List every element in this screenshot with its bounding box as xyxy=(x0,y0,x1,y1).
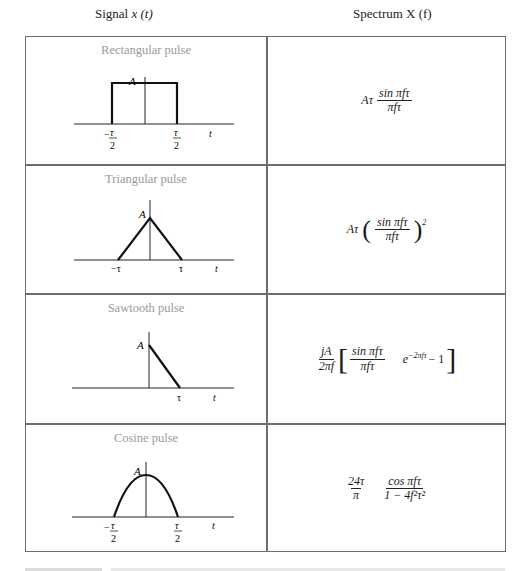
exponent: 2 xyxy=(422,218,426,227)
sawtooth-pulse-plot: A τ t xyxy=(26,295,266,423)
spectrum-formula: jA 2πf [ sin πfτ πfτ e−2πfτ − 1 ] xyxy=(317,344,457,374)
svg-text:2: 2 xyxy=(111,533,116,544)
svg-text:τ: τ xyxy=(174,127,178,138)
denominator: πfτ xyxy=(383,230,401,243)
axis-label-t: t xyxy=(213,392,216,403)
numerator: 24τ xyxy=(346,475,366,488)
numerator: cos πfτ xyxy=(386,475,423,489)
table-row-rectangular: Rectangular pulse A − τ 2 τ 2 t Aτ sin π… xyxy=(26,37,505,164)
spectrum-formula: 24τ π cos πfτ 1 − 4f²τ² xyxy=(346,475,427,502)
spectrum-formula: Aτ sin πfτ πfτ xyxy=(361,87,411,114)
spectrum-cell: Aτ ( sin πfτ πfτ )2 xyxy=(268,166,505,293)
signal-cell: Rectangular pulse A − τ 2 τ 2 t xyxy=(26,37,266,164)
signal-cell: Sawtooth pulse A τ t xyxy=(26,295,266,423)
amplitude-label: A xyxy=(136,339,144,351)
right-limit-label: τ xyxy=(179,263,183,274)
svg-text:2: 2 xyxy=(174,140,179,151)
left-limit-label: −τ xyxy=(111,263,121,274)
denominator: 2πf xyxy=(317,360,336,373)
table-row-cosine: Cosine pulse A − τ 2 τ 2 t 24τ xyxy=(26,425,505,552)
exponential: e−2πfτ xyxy=(403,351,427,367)
coefficient-fraction: 24τ π xyxy=(346,475,366,502)
spectrum-formula: Aτ ( sin πfτ πfτ )2 xyxy=(347,216,427,243)
svg-text:2: 2 xyxy=(110,140,115,151)
fraction: cos πfτ 1 − 4f²τ² xyxy=(382,475,427,502)
svg-text:τ: τ xyxy=(175,520,179,531)
formula-prefix: Aτ xyxy=(361,93,373,108)
signal-cell: Cosine pulse A − τ 2 τ 2 t xyxy=(26,425,266,552)
denominator: πfτ xyxy=(359,360,377,373)
amplitude-label: A xyxy=(138,208,146,220)
numerator: sin πfτ xyxy=(377,87,412,101)
amplitude-label: A xyxy=(128,75,136,87)
signal-variable: x (t) xyxy=(131,6,152,21)
numerator: jA xyxy=(319,345,334,359)
figure-caption-cropped xyxy=(25,565,505,571)
transform-table: Rectangular pulse A − τ 2 τ 2 t Aτ sin π… xyxy=(25,36,506,552)
axis-label-t: t xyxy=(212,520,215,531)
numerator: sin πfτ xyxy=(350,345,385,359)
minus-sign: − xyxy=(104,522,110,533)
signal-cell: Triangular pulse A −τ τ t xyxy=(26,166,266,293)
formula-tail: − 1 xyxy=(429,352,445,367)
spectrum-cell: jA 2πf [ sin πfτ πfτ e−2πfτ − 1 ] xyxy=(268,295,505,423)
rectangular-pulse-plot: A − τ 2 τ 2 t xyxy=(26,37,266,164)
spectrum-cell: Aτ sin πfτ πfτ xyxy=(268,37,505,164)
table-row-triangular: Triangular pulse A −τ τ t Aτ ( sin πfτ π… xyxy=(26,166,505,293)
fraction: sin πfτ πfτ xyxy=(375,216,410,243)
signal-label: Signal xyxy=(95,6,128,21)
denominator: πfτ xyxy=(385,101,403,114)
denominator: 1 − 4f²τ² xyxy=(382,489,427,502)
column-header-signal: Signal x (t) xyxy=(95,6,153,22)
axis-label-t: t xyxy=(209,128,212,139)
formula-prefix: Aτ xyxy=(347,222,359,237)
cosine-pulse-plot: A − τ 2 τ 2 t xyxy=(26,425,266,552)
fraction: sin πfτ πfτ xyxy=(350,345,385,372)
axis-label-t: t xyxy=(215,263,218,274)
table-row-sawtooth: Sawtooth pulse A τ t jA 2πf [ sin πfτ πf… xyxy=(26,295,505,423)
denominator: π xyxy=(351,488,361,502)
svg-text:τ: τ xyxy=(111,520,115,531)
triangular-pulse-plot: A −τ τ t xyxy=(26,166,266,293)
svg-text:τ: τ xyxy=(110,127,114,138)
right-limit-label: τ xyxy=(177,392,181,403)
column-header-spectrum: Spectrum X (f) xyxy=(353,6,432,22)
fraction: sin πfτ πfτ xyxy=(377,87,412,114)
coefficient-fraction: jA 2πf xyxy=(317,345,336,372)
numerator: sin πfτ xyxy=(375,216,410,230)
spectrum-cell: 24τ π cos πfτ 1 − 4f²τ² xyxy=(268,425,505,552)
svg-text:2: 2 xyxy=(175,533,180,544)
amplitude-label: A xyxy=(133,465,141,477)
